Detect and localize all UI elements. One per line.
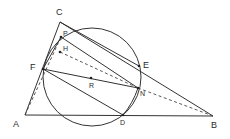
- label-p: P: [63, 30, 68, 37]
- point-r: [90, 77, 93, 80]
- segment-fp: [43, 37, 61, 69]
- segment-cb: [60, 22, 213, 116]
- segment-ab: [25, 115, 213, 116]
- arc-nd: [123, 88, 138, 115]
- segment-hn-dashed: [60, 52, 138, 88]
- point-h: [59, 51, 62, 54]
- label-c: C: [56, 7, 63, 17]
- point-p: [60, 36, 63, 39]
- point-n: [137, 87, 140, 90]
- label-a: A: [13, 119, 19, 129]
- point-d: [122, 114, 125, 117]
- point-e: [138, 65, 141, 68]
- label-e: E: [143, 60, 149, 70]
- label-b: B: [211, 120, 217, 130]
- label-r: R: [89, 82, 94, 89]
- label-f: F: [30, 62, 36, 72]
- label-h: H: [63, 45, 68, 52]
- segment-nb-dashed: [138, 88, 213, 116]
- geometry-diagram: C P H F R E N D A B: [0, 0, 230, 139]
- label-n: N: [140, 90, 145, 97]
- label-d: D: [120, 119, 125, 126]
- point-f: [42, 68, 45, 71]
